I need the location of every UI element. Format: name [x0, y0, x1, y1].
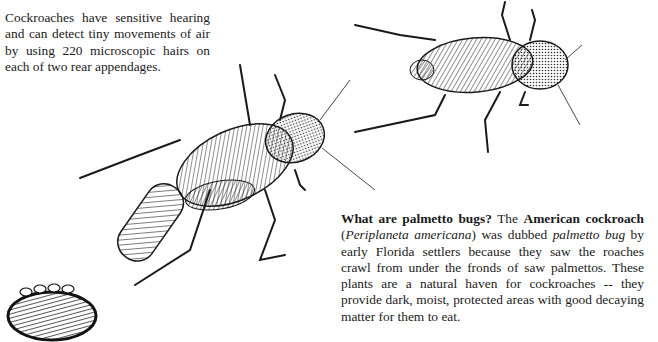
nickname: palmetto bug	[553, 227, 625, 242]
dubbed-text: ) was dubbed	[471, 227, 552, 242]
female-cockroach-with-egg-case-illustration	[60, 60, 380, 300]
egg-case-illustration	[4, 282, 104, 342]
intro-text: The	[492, 211, 524, 226]
common-name: American cockroach	[523, 211, 644, 226]
adult-cockroach-illustration	[340, 0, 610, 160]
palmetto-bug-paragraph: What are palmetto bugs? The American coc…	[341, 211, 644, 325]
